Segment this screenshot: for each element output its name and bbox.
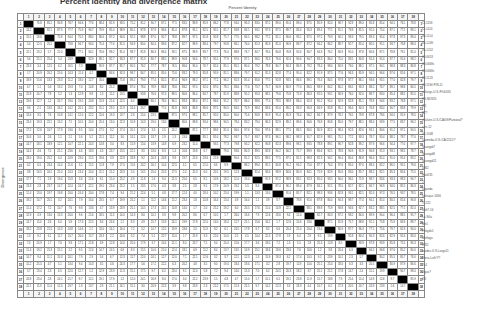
matrix-cell: 6.4: [294, 233, 304, 240]
matrix-cell: 98.5: [262, 92, 272, 99]
matrix-cell: 10.4: [252, 233, 262, 240]
matrix-cell: 24.3: [65, 170, 75, 177]
matrix-cell: 16.0: [242, 198, 252, 205]
matrix-cell: 78.4: [231, 120, 241, 127]
matrix-cell: 81.8: [138, 49, 148, 56]
matrix-cell: 6.0: [231, 205, 241, 212]
matrix-cell: 81.4: [252, 170, 262, 177]
matrix-cell: 3.5: [96, 262, 106, 269]
matrix-cell: 10.6: [24, 134, 34, 141]
matrix-cell: 15.1: [127, 283, 137, 290]
matrix-cell: 82.2: [304, 70, 314, 77]
matrix-cell: 80.7: [273, 63, 283, 70]
column-header: 10: [117, 14, 127, 21]
matrix-cell: 15.1: [96, 106, 106, 113]
matrix-cell: 98.3: [294, 134, 304, 141]
matrix-cell: 87.1: [325, 219, 335, 226]
matrix-cell: 94.3: [314, 49, 324, 56]
matrix-cell: 90.4: [377, 212, 387, 219]
matrix-cell: 2.4: [179, 170, 189, 177]
matrix-cell: 25.1: [34, 56, 44, 63]
matrix-cell: 14.0: [231, 269, 241, 276]
matrix-cell: 78.5: [408, 191, 418, 198]
matrix-cell: 24.2: [138, 162, 148, 169]
matrix-cell: 75.7: [221, 35, 231, 42]
column-header: 34: [366, 290, 376, 297]
row-label: 09-0653: [422, 54, 463, 61]
matrix-cell: 87.5: [273, 28, 283, 35]
diagonal-cell: [127, 92, 137, 99]
matrix-cell: 95.4: [377, 35, 387, 42]
matrix-cell: 95.5: [211, 56, 221, 63]
matrix-cell: 85.1: [221, 63, 231, 70]
matrix-cell: 86.0: [242, 99, 252, 106]
matrix-cell: 2.0: [190, 226, 200, 233]
matrix-cell: 6.2: [262, 269, 272, 276]
matrix-cell: 96.8: [366, 148, 376, 155]
matrix-cell: 1.8: [304, 241, 314, 248]
matrix-cell: 11.1: [44, 255, 54, 262]
matrix-cell: 19.7: [65, 283, 75, 290]
matrix-cell: 25.0: [127, 241, 137, 248]
column-header: 4: [55, 290, 65, 297]
matrix-cell: 80.0: [138, 42, 148, 49]
matrix-cell: 98.1: [325, 134, 335, 141]
matrix-cell: 23.8: [294, 276, 304, 283]
matrix-cell: 10.6: [179, 148, 189, 155]
matrix-cell: 3.5: [138, 148, 148, 155]
column-header: 16: [179, 14, 189, 21]
matrix-cell: 85.5: [148, 70, 158, 77]
matrix-cell: 98.8: [190, 120, 200, 127]
matrix-cell: 94.3: [335, 198, 345, 205]
matrix-cell: 96.3: [346, 70, 356, 77]
matrix-cell: 82.6: [377, 233, 387, 240]
diagonal-cell: [44, 35, 54, 42]
matrix-cell: 98.3: [398, 177, 408, 184]
matrix-cell: 11.4: [24, 191, 34, 198]
matrix-cell: 6.5: [34, 162, 44, 169]
matrix-cell: 1.9: [75, 283, 85, 290]
matrix-cell: 93.5: [304, 141, 314, 148]
matrix-cell: 25.0: [138, 113, 148, 120]
matrix-cell: 7.4: [138, 233, 148, 240]
matrix-cell: 92.8: [346, 141, 356, 148]
matrix-cell: 86.5: [294, 127, 304, 134]
matrix-cell: 80.2: [335, 84, 345, 91]
matrix-cell: 3.7: [304, 269, 314, 276]
matrix-cell: 76.1: [398, 21, 408, 28]
matrix-cell: 90.3: [366, 233, 376, 240]
matrix-cell: 9.5: [75, 248, 85, 255]
matrix-cell: 12.5: [159, 226, 169, 233]
matrix-cell: 7.9: [75, 255, 85, 262]
matrix-cell: 95.4: [377, 134, 387, 141]
matrix-cell: 89.5: [169, 92, 179, 99]
matrix-cell: 77.0: [398, 141, 408, 148]
matrix-cell: 7.1: [179, 255, 189, 262]
matrix-cell: 96.7: [86, 28, 96, 35]
matrix-cell: 5.1: [148, 233, 158, 240]
matrix-cell: 76.0: [252, 127, 262, 134]
matrix-cell: 21.1: [325, 269, 335, 276]
matrix-cell: 18.3: [273, 255, 283, 262]
matrix-cell: 84.1: [242, 28, 252, 35]
matrix-cell: 87.1: [377, 49, 387, 56]
matrix-cell: 79.7: [242, 70, 252, 77]
matrix-cell: 91.6: [283, 191, 293, 198]
matrix-cell: 92.6: [294, 49, 304, 56]
column-header: 22: [242, 14, 252, 21]
row-label: ZI1: [422, 103, 463, 110]
matrix-cell: 85.1: [44, 21, 54, 28]
matrix-cell: 2.0: [200, 205, 210, 212]
matrix-cell: 4.9: [127, 177, 137, 184]
matrix-cell: 85.8: [387, 241, 397, 248]
matrix-cell: 19.2: [231, 184, 241, 191]
matrix-cell: 3.7: [148, 241, 158, 248]
matrix-cell: 82.1: [44, 28, 54, 35]
matrix-cell: 79.8: [356, 113, 366, 120]
matrix-cell: 85.9: [200, 21, 210, 28]
matrix-cell: 20.9: [148, 283, 158, 290]
matrix-cell: 88.5: [377, 205, 387, 212]
matrix-cell: 14.7: [24, 255, 34, 262]
matrix-cell: 79.2: [252, 63, 262, 70]
matrix-cell: 85.8: [325, 106, 335, 113]
